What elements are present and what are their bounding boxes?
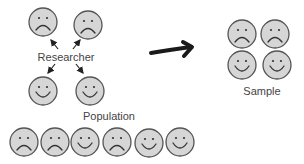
smiley-face-icon [228,51,256,79]
smiley-face-icon [76,77,104,105]
smiley-face-icon [71,128,99,156]
smiley-face-icon [263,51,291,79]
sample-group [228,20,291,79]
population-row [10,128,194,157]
right-arrow-icon [151,42,192,56]
arrow-down-left-icon [48,64,55,73]
frowning-face-icon [41,128,69,156]
population-label: Population [83,110,135,122]
frowning-face-icon [261,20,289,48]
arrow-up-right-icon [73,40,80,49]
frowning-face-icon [29,8,57,36]
frowning-face-icon [10,128,38,156]
smiley-face-icon [29,77,57,105]
smiley-face-icon [135,129,163,157]
sample-label: Sample [243,85,280,97]
population-sample-diagram [0,0,304,164]
researcher-label: Researcher [38,51,95,63]
smiley-face-icon [166,128,194,156]
frowning-face-icon [103,128,131,156]
frowning-face-icon [228,20,256,48]
arrow-up-left-icon [51,40,58,49]
frowning-face-icon [74,11,102,39]
arrow-down-right-icon [76,64,83,73]
